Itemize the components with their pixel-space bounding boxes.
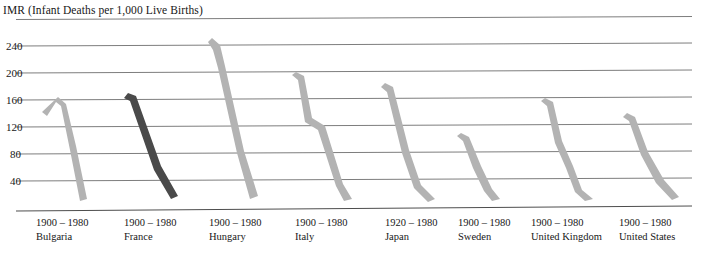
band-united-kingdom: [541, 98, 593, 201]
category-name: Italy: [295, 230, 348, 244]
band-bulgaria: [42, 97, 87, 201]
category-range: 1900 – 1980: [36, 216, 89, 230]
category-range: 1900 – 1980: [124, 216, 177, 230]
category-name: Sweden: [458, 230, 511, 244]
category-range: 1900 – 1980: [458, 216, 511, 230]
ytick-label-80: 80: [10, 148, 21, 160]
category-label-bulgaria: 1900 – 1980 Bulgaria: [36, 216, 89, 243]
category-range: 1900 – 1980: [619, 216, 675, 230]
band-sweden: [457, 133, 500, 201]
category-name: Hungary: [209, 230, 262, 244]
category-label-japan: 1920 – 1980 Japan: [385, 216, 438, 243]
gridline-80: [16, 151, 692, 154]
gridline-120: [16, 124, 692, 127]
category-label-united-states: 1900 – 1980 United States: [619, 216, 675, 243]
band-united-states: [623, 113, 679, 200]
band-hungary: [208, 38, 258, 199]
category-name: Bulgaria: [36, 230, 89, 244]
category-range: 1900 – 1980: [295, 216, 348, 230]
category-range: 1920 – 1980: [385, 216, 438, 230]
category-range: 1900 – 1980: [209, 216, 262, 230]
country-bands: [42, 38, 679, 202]
gridline-200: [16, 70, 692, 73]
ytick-label-240: 240: [6, 40, 23, 52]
gridline-160: [16, 97, 692, 100]
category-name: United States: [619, 230, 675, 244]
band-france: [124, 93, 178, 199]
category-label-sweden: 1900 – 1980 Sweden: [458, 216, 511, 243]
ytick-label-40: 40: [10, 175, 21, 187]
category-name: Japan: [385, 230, 438, 244]
ytick-label-200: 200: [6, 67, 23, 79]
category-label-italy: 1900 – 1980 Italy: [295, 216, 348, 243]
category-label-hungary: 1900 – 1980 Hungary: [209, 216, 262, 243]
imr-chart: IMR (Infant Deaths per 1,000 Live Births…: [0, 0, 704, 257]
gridlines: [16, 17, 692, 212]
gridline-40: [16, 178, 692, 181]
category-label-france: 1900 – 1980 France: [124, 216, 177, 243]
category-label-united-kingdom: 1900 – 1980 United Kingdom: [531, 216, 602, 243]
ytick-label-120: 120: [6, 121, 23, 133]
gridline-240: [16, 43, 692, 46]
band-italy: [292, 72, 352, 201]
ytick-label-160: 160: [6, 94, 23, 106]
category-name: United Kingdom: [531, 230, 602, 244]
band-japan: [381, 83, 435, 202]
axis-baseline: [16, 206, 692, 211]
category-range: 1900 – 1980: [531, 216, 602, 230]
gridline-top: [16, 17, 692, 20]
category-name: France: [124, 230, 177, 244]
